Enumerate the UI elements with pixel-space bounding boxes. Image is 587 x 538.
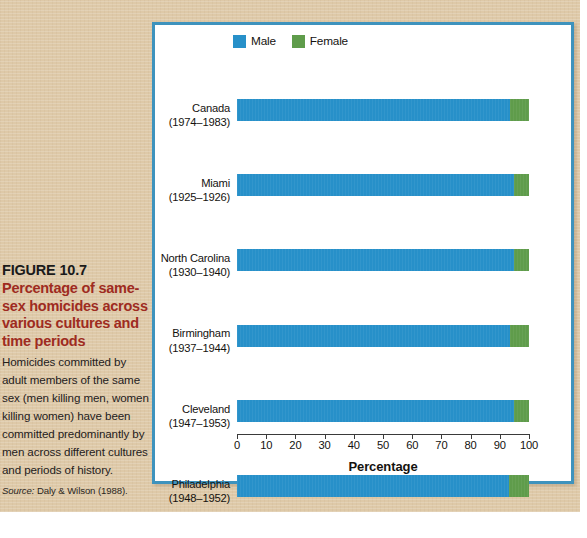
category-place: North Carolina — [70, 251, 230, 265]
figure-caption: FIGURE 10.7 Percentage of same-sex homic… — [2, 262, 152, 496]
bar-segment-female — [510, 325, 529, 347]
category-label: Cleveland(1947–1953) — [70, 402, 237, 430]
chart-panel: Male Female Canada(1974–1983)Miami(1925–… — [152, 22, 574, 484]
x-axis-tick-label: 60 — [406, 439, 418, 451]
chart-legend: Male Female — [233, 33, 358, 49]
category-years: (1948–1952) — [70, 491, 230, 505]
bar-segment-male — [237, 400, 514, 422]
bar-segment-male — [237, 174, 514, 196]
x-axis-title: Percentage — [237, 459, 529, 474]
bar-segment-female — [514, 249, 529, 271]
x-axis-tick-label: 70 — [435, 439, 447, 451]
x-axis-tick-label: 80 — [465, 439, 477, 451]
legend-swatch-male — [233, 35, 246, 48]
legend-item-male: Male — [233, 34, 276, 48]
category-label: Canada(1974–1983) — [70, 100, 237, 128]
bar-segment-male — [237, 99, 510, 121]
bar-row: Canada(1974–1983) — [237, 99, 529, 131]
category-years: (1930–1940) — [70, 265, 230, 279]
category-place: Birmingham — [70, 326, 230, 340]
category-label: Philadelphia(1948–1952) — [70, 477, 237, 505]
plot-area: Canada(1974–1983)Miami(1925–1926)North C… — [237, 55, 529, 433]
stacked-bar — [237, 174, 529, 196]
bar-segment-male — [237, 249, 514, 271]
bar-segment-male — [237, 325, 510, 347]
stacked-bar — [237, 249, 529, 271]
category-years: (1925–1926) — [70, 190, 230, 204]
category-years: (1974–1983) — [70, 115, 230, 129]
x-axis-tick-label: 0 — [234, 439, 240, 451]
bar-segment-female — [514, 174, 529, 196]
category-place: Canada — [70, 100, 230, 114]
category-label: Miami(1925–1926) — [70, 176, 237, 204]
x-axis-tick-label: 40 — [348, 439, 360, 451]
category-place: Miami — [70, 176, 230, 190]
bar-segment-female — [514, 400, 529, 422]
category-place: Philadelphia — [70, 477, 230, 491]
bar-row: North Carolina(1930–1940) — [237, 249, 529, 281]
bar-row: Miami(1925–1926) — [237, 174, 529, 206]
stacked-bar — [237, 325, 529, 347]
bar-segment-female — [509, 475, 529, 497]
legend-item-female: Female — [292, 34, 348, 48]
x-axis-tick-label: 10 — [260, 439, 272, 451]
x-axis-tick-label: 100 — [520, 439, 538, 451]
x-axis-tick-label: 20 — [289, 439, 301, 451]
bar-row: Birmingham(1937–1944) — [237, 325, 529, 357]
source-label: Source: — [2, 485, 34, 496]
legend-swatch-female — [292, 35, 305, 48]
x-axis-tick-label: 30 — [319, 439, 331, 451]
x-axis-tick-label: 50 — [377, 439, 389, 451]
stacked-bar — [237, 475, 529, 497]
category-years: (1947–1953) — [70, 416, 230, 430]
category-label: North Carolina(1930–1940) — [70, 251, 237, 279]
category-label: Birmingham(1937–1944) — [70, 326, 237, 354]
legend-label-male: Male — [251, 34, 276, 48]
bar-segment-female — [510, 99, 529, 121]
stacked-bar — [237, 400, 529, 422]
bar-row: Cleveland(1947–1953) — [237, 400, 529, 432]
x-axis-tick-label: 90 — [494, 439, 506, 451]
bar-segment-male — [237, 475, 509, 497]
bar-row: Philadelphia(1948–1952) — [237, 475, 529, 507]
category-years: (1937–1944) — [70, 340, 230, 354]
stacked-bar — [237, 99, 529, 121]
figure-page: FIGURE 10.7 Percentage of same-sex homic… — [0, 0, 587, 538]
category-place: Cleveland — [70, 402, 230, 416]
legend-label-female: Female — [310, 34, 348, 48]
